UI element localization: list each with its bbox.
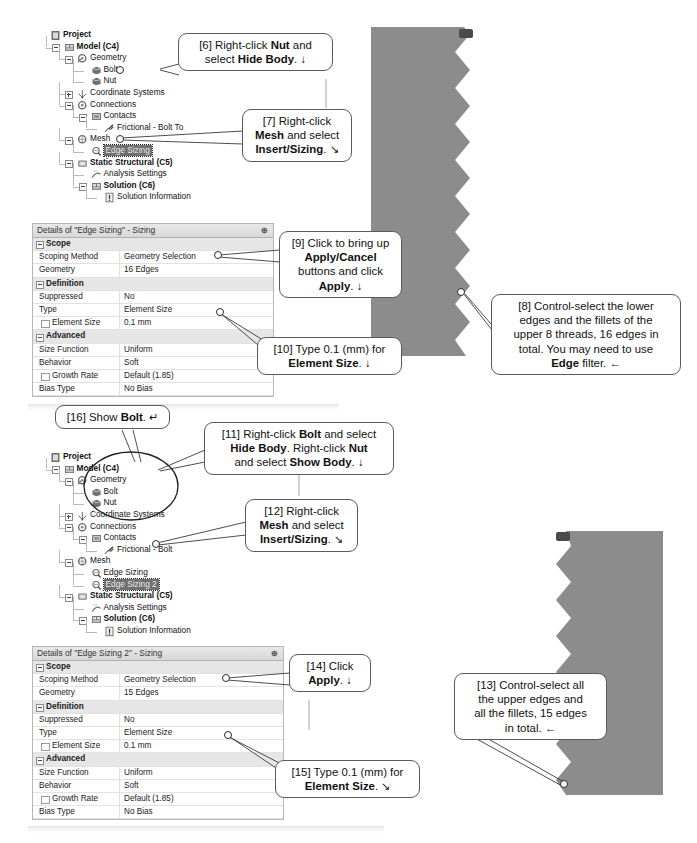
details-header-text: Details of "Edge Sizing 2" - Sizing [37, 648, 162, 658]
details-row[interactable]: Geometry 15 Edges [33, 687, 283, 700]
details-row[interactable]: Suppressed No [33, 714, 283, 727]
tree-guide [59, 94, 60, 106]
outline-tree-bottom[interactable]: Project Model (C4) Geometry Bolt Nut Coo… [38, 452, 238, 638]
details-row-value[interactable]: Default (1.85) [120, 370, 273, 382]
nut-geometry-shape [556, 531, 663, 795]
tree-guide [73, 105, 74, 117]
details-row[interactable]: Geometry 16 Edges [33, 264, 273, 277]
tree-node-label: Coordinate Systems [90, 509, 165, 520]
tree-guide [73, 59, 74, 71]
details-row-label: Size Function [33, 767, 119, 779]
pin-icon[interactable]: ⊕ [261, 224, 268, 237]
details-row[interactable]: Type Element Size [33, 727, 283, 740]
details-row-value[interactable]: No [120, 291, 273, 303]
details-panel-edge-sizing-2[interactable]: Details of "Edge Sizing 2" - Sizing ⊕ Sc… [32, 646, 284, 820]
details-row[interactable]: Suppressed No [33, 291, 273, 304]
details-row-value[interactable]: No [120, 714, 283, 726]
coordsys-icon [77, 510, 88, 521]
details-row-value[interactable]: 0.1 mm [120, 740, 283, 752]
pin-icon[interactable]: ⊕ [271, 647, 278, 660]
details-row[interactable]: Element Size 0.1 mm [33, 317, 273, 330]
marker-geometry-field-2 [222, 674, 230, 682]
details-group-row[interactable]: Scope [33, 238, 273, 251]
details-row-value[interactable]: Soft [120, 780, 283, 792]
tree-guide [73, 493, 84, 494]
bolt-top-marker [459, 29, 473, 38]
details-row-value[interactable]: No Bias [120, 383, 273, 395]
details-row-value[interactable]: Default (1.85) [120, 793, 283, 805]
details-row[interactable]: Behavior Soft [33, 357, 273, 370]
details-row-value[interactable]: Uniform [120, 767, 283, 779]
details-row-value[interactable]: Element Size [120, 304, 273, 316]
tree-node-label: Geometry [90, 474, 126, 485]
tree-guide [59, 504, 60, 516]
details-row[interactable]: Scoping Method Geometry Selection [33, 251, 273, 264]
details-group-row[interactable]: Scope [33, 661, 283, 674]
details-row[interactable]: Size Function Uniform [33, 344, 273, 357]
tree-guide [59, 585, 60, 597]
details-group-row[interactable]: Definition [33, 278, 273, 291]
details-row-value[interactable]: 15 Edges [120, 687, 283, 699]
details-row[interactable]: Bias Type No Bias [33, 806, 283, 819]
tree-node-label: Coordinate Systems [90, 87, 165, 98]
details-row[interactable]: Bias Type No Bias [33, 383, 273, 396]
details-row-value[interactable]: Uniform [120, 344, 273, 356]
tree-node-label: Edge Sizing 2 [104, 579, 159, 590]
tree-node-label: Nut [104, 497, 117, 508]
details-panel-edge-sizing[interactable]: Details of "Edge Sizing" - Sizing ⊕ Scop… [32, 223, 274, 397]
details-row-value[interactable]: Geometry Selection [120, 251, 273, 263]
details-row[interactable]: Type Element Size [33, 304, 273, 317]
tree-guide [86, 551, 97, 552]
details-row-value[interactable]: No Bias [120, 806, 283, 818]
details-row-label: Type [33, 727, 119, 739]
tree-guide [73, 152, 84, 153]
tree-expander[interactable] [65, 91, 73, 99]
details-row-value[interactable]: Soft [120, 357, 273, 369]
tree-guide [73, 609, 84, 610]
tree-node-label: Edge Sizing [104, 567, 148, 578]
tree-node-label: Project [63, 29, 91, 40]
details-row-value[interactable]: Element Size [120, 727, 283, 739]
details-row[interactable]: Behavior Soft [33, 780, 283, 793]
tree-guide [73, 574, 84, 575]
callout-step-13: [13] Control-select allthe upper edges a… [454, 673, 607, 740]
details-row-value[interactable]: 0.1 mm [120, 317, 273, 329]
details-row[interactable]: Growth Rate Default (1.85) [33, 370, 273, 383]
tree-guide [73, 71, 84, 72]
mesh-icon [77, 556, 88, 567]
marker-mesh-node [116, 135, 124, 143]
details-row-value[interactable]: Geometry Selection [120, 674, 283, 686]
bolt-geometry-shape [371, 27, 470, 356]
tree-node-label: Analysis Settings [104, 168, 167, 179]
mesh-icon [77, 134, 88, 145]
details-row[interactable]: Growth Rate Default (1.85) [33, 793, 283, 806]
details-row-label: Size Function [33, 344, 119, 356]
details-row-label: Growth Rate [33, 793, 119, 805]
details-row-value[interactable]: 16 Edges [120, 264, 273, 276]
tree-guide [73, 608, 74, 620]
details-row[interactable]: Size Function Uniform [33, 767, 283, 780]
details-row[interactable]: Element Size 0.1 mm [33, 740, 283, 753]
model-icon [64, 42, 75, 53]
solution-icon [91, 614, 102, 625]
details-group-label: Scope [33, 238, 119, 250]
callout-step-12: [12] Right-clickMesh and selectInsert/Si… [245, 499, 358, 552]
tree-expander[interactable] [65, 513, 73, 521]
details-group-label: Advanced [33, 753, 119, 765]
tree-node-label: Contacts [104, 532, 137, 543]
details-group-row[interactable]: Advanced [33, 330, 273, 343]
contacts-icon [91, 533, 102, 544]
details-group-row[interactable]: Definition [33, 701, 283, 714]
tree-guide [73, 492, 74, 504]
details-group-row[interactable]: Advanced [33, 753, 283, 766]
tree-node-label: Static Structural (C5) [90, 590, 173, 601]
callout-step-15: [15] Type 0.1 (mm) forElement Size. ↘ [275, 760, 420, 798]
marker-element-size-field [216, 308, 224, 316]
details-row[interactable]: Scoping Method Geometry Selection [33, 674, 283, 687]
body-icon [91, 487, 102, 498]
contact-pair-icon [104, 545, 115, 556]
callout-step-16: [16] Show Bolt. ↵ [55, 405, 170, 429]
details-row-label: Behavior [33, 357, 119, 369]
settings-icon [91, 603, 102, 614]
details-row-label: Element Size [33, 740, 119, 752]
